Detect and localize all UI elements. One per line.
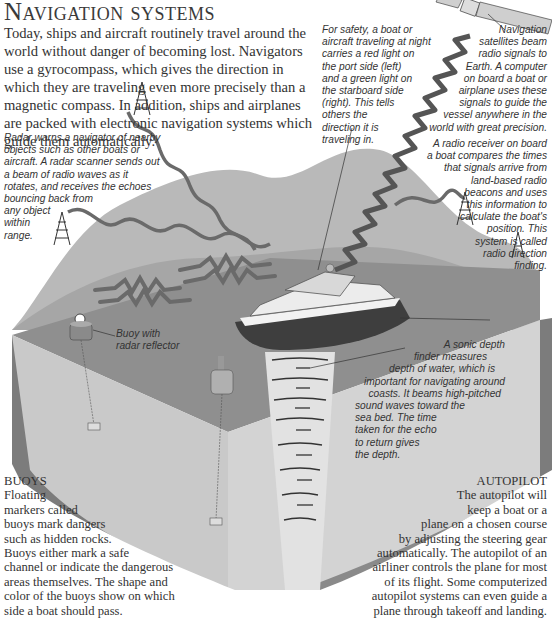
caption-line: the port side (left) [322,61,431,73]
section-line: such as hidden rocks. [4,532,175,546]
section-line: autopilot systems can even guide a [372,589,547,603]
section-line: of its flight. Some computerized [372,575,547,589]
caption-line: beacons and uses [427,187,547,199]
caption-line: on board a boat or [429,73,547,85]
caption-line: the starboard side [322,85,431,97]
caption-line: Buoy with [116,328,179,340]
caption-line: system is called [427,236,547,248]
intro-line: which they are traveling even more preci… [4,78,276,96]
caption-line: finder measures [355,351,487,363]
caption-line: range. [4,230,160,242]
caption-line: important for navigating around [355,376,505,388]
caption-line: carries a red light on [322,48,431,60]
page-title: Navigation systems [4,0,215,26]
caption-line: Navigation [429,24,547,36]
caption-line: coasts. It beams high-pitched [355,388,501,400]
section-line: airliner controls the plane for most [372,560,547,574]
section-line: plane through takeoff and landing. [372,604,547,618]
caption-line: A radio receiver on board [427,138,547,150]
section-line: keep a boat or a [372,503,547,517]
radio-direction-caption: A radio receiver on board a boat compare… [427,138,547,272]
intro-line: use a gyrocompass, which gives the direc… [4,60,276,78]
buoys-section: BUOYS Floating markers called buoys mark… [4,474,175,618]
caption-line: radio direction [427,248,547,260]
caption-line: and a green light on [322,73,431,85]
buoy-radar-reflector-label: Buoy with radar reflector [116,328,179,352]
section-line: side a boat should pass. [4,604,175,618]
caption-line: rotates, and receives the echoes [4,181,160,193]
section-line: The autopilot will [372,488,547,502]
caption-line: position. This [427,223,547,235]
caption-line: (right). This tells [322,97,431,109]
section-line: color of the buoys show on which [4,589,175,603]
section-line: channel or indicate the dangerous [4,560,175,574]
intro-line: are packed with electronic navigation sy… [4,114,276,132]
autopilot-heading: AUTOPILOT [372,474,547,488]
caption-line: For safety, a boat or [322,24,431,36]
radar-caption: Radar warns a navigator of nearby object… [4,132,160,242]
intro-line: world without danger of becoming lost. N… [4,42,276,60]
caption-line: objects such as other boats or [4,144,160,156]
autopilot-section: AUTOPILOT The autopilot will keep a boat… [372,474,547,618]
navigation-lights-caption: For safety, a boat or aircraft traveling… [322,24,431,146]
section-line: buoys mark dangers [4,517,175,531]
section-line: markers called [4,503,175,517]
caption-line: aircraft traveling at night [322,36,431,48]
caption-line: radio signals to [429,48,547,60]
section-line: automatically. The autopilot of an [372,546,547,560]
caption-line: aircraft. A radar scanner sends out [4,156,160,168]
section-line: plane on a chosen course [372,517,547,531]
caption-line: finding. [427,260,547,272]
caption-line: calculate the boat's [427,211,547,223]
caption-line: sea bed. The time [355,412,505,424]
caption-line: a beam of radio waves as it [4,169,160,181]
caption-line: any object [4,205,160,217]
caption-line: Radar warns a navigator of nearby [4,132,160,144]
caption-line: depth of water, which is [355,363,495,375]
section-line: areas themselves. The shape and [4,575,175,589]
section-line: by adjusting the steering gear [372,532,547,546]
caption-line: satellites beam [429,36,547,48]
caption-line: the depth. [355,449,505,461]
section-line: Buoys either mark a safe [4,546,175,560]
caption-line: signals to guide the [429,97,547,109]
intro-line: magnetic compass. In addition, ships and… [4,96,276,114]
caption-line: vessel anywhere in the [429,109,547,121]
caption-line: land-based radio [427,175,547,187]
caption-line: direction it is [322,122,431,134]
section-line: Floating [4,488,175,502]
caption-line: a boat compares the times [427,150,547,162]
caption-line: traveling in. [322,134,431,146]
caption-line: Earth. A computer [429,61,547,73]
caption-line: others the [322,109,431,121]
caption-line: world with great precision. [429,122,547,134]
caption-line: within [4,217,160,229]
caption-line: bouncing back from [4,193,160,205]
caption-line: this information to [427,199,547,211]
caption-line: airplane uses these [429,85,547,97]
satellite-caption: Navigation satellites beam radio signals… [429,24,547,134]
caption-line: A sonic depth [355,339,505,351]
intro-line: Today, ships and aircraft routinely trav… [4,24,276,42]
caption-line: that signals arrive from [427,162,547,174]
sonic-depth-caption: A sonic depth finder measures depth of w… [355,339,505,461]
caption-line: to return gives [355,437,505,449]
caption-line: taken for the echo [355,424,505,436]
caption-line: sound waves toward the [355,400,505,412]
caption-line: radar reflector [116,340,179,352]
buoys-heading: BUOYS [4,474,175,488]
